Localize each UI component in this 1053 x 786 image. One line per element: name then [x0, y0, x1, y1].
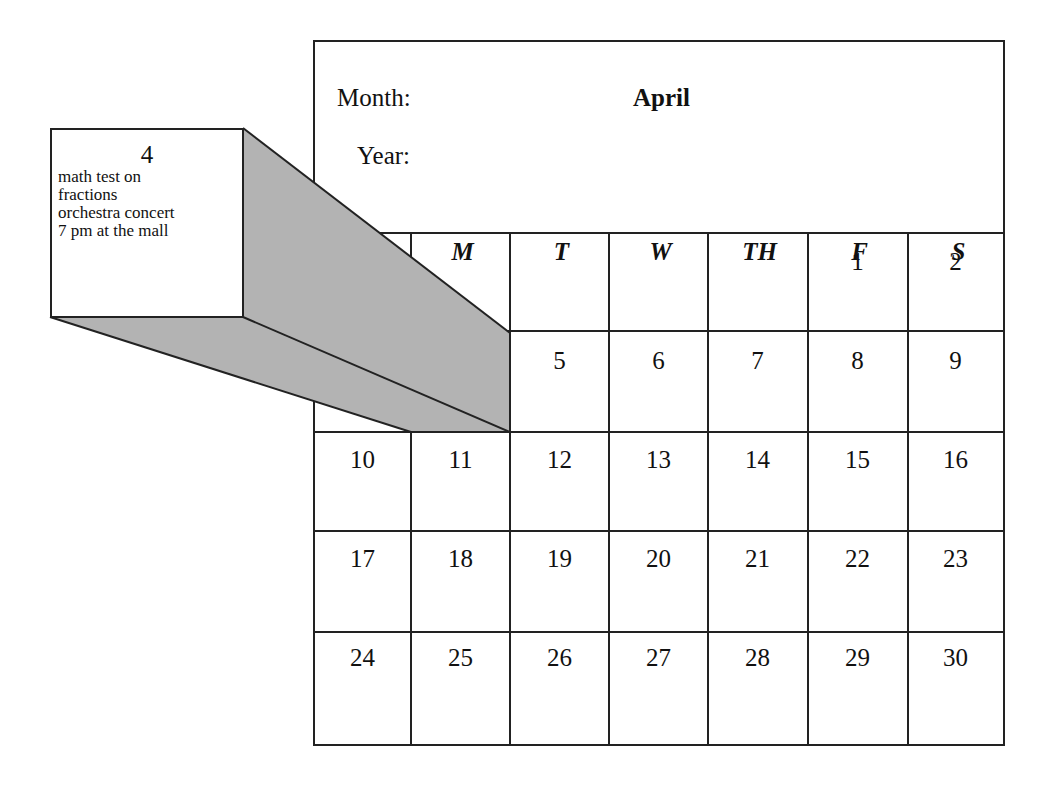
- callout-note-line: math test on: [52, 168, 242, 186]
- callout-note-line: 7 pm at the mall: [52, 222, 242, 240]
- callout-note-line: fractions: [52, 186, 242, 204]
- callout-day-number: 4: [52, 142, 242, 168]
- day-4-callout: 4 math test on fractions orchestra conce…: [50, 128, 244, 318]
- callout-extrusion: [0, 0, 1053, 786]
- callout-note-line: orchestra concert: [52, 204, 242, 222]
